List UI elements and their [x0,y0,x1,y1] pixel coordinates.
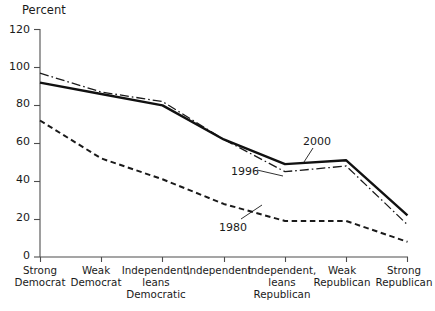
line-chart: Percent 120 100 80 60 40 20 0 Strong Dem… [0,0,435,311]
leader-1980 [241,205,262,219]
series-line-1996 [40,73,408,225]
series-line-2000 [40,83,408,216]
axes [34,29,408,262]
y-ticks [34,30,40,258]
x-ticks [41,257,408,262]
plot-area [0,0,435,311]
leader-2000 [304,148,313,162]
annotation-leaders [241,148,313,219]
leader-1996 [257,170,283,176]
